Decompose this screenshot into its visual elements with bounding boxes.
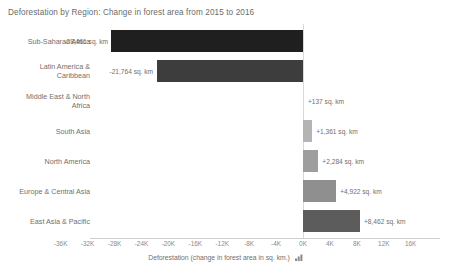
x-axis-tick-label: -16K (189, 240, 203, 247)
bar-value-label: -28,461 sq. km (64, 38, 108, 45)
bar-track: +137 sq. km (0, 86, 451, 116)
bar-row[interactable]: East Asia & Pacific+8,462 sq. km (0, 206, 451, 236)
bar-row[interactable]: Middle East & North Africa+137 sq. km (0, 86, 451, 116)
sort-ascending-icon[interactable] (295, 254, 303, 262)
x-axis-tick-label: 16K (405, 240, 416, 247)
x-axis-tick-label: -36K (54, 240, 68, 247)
bar-row[interactable]: Sub-Saharan Africa-28,461 sq. km (0, 26, 451, 56)
bar-value-label: -21,764 sq. km (110, 68, 154, 75)
axis-line (90, 238, 440, 239)
x-axis-tick-label: -28K (108, 240, 122, 247)
x-axis-tick-label: -24K (135, 240, 149, 247)
chart-title: Deforestation by Region: Change in fores… (8, 8, 254, 17)
bar-track: +1,361 sq. km (0, 116, 451, 146)
bar-track: +8,462 sq. km (0, 206, 451, 236)
x-axis-tick-label: 4K (326, 240, 334, 247)
bar[interactable] (303, 90, 304, 112)
bar-row[interactable]: North America+2,284 sq. km (0, 146, 451, 176)
x-axis-tick-label: 0K (299, 240, 307, 247)
bar[interactable] (303, 120, 312, 142)
x-axis-title-label: Deforestation (change in forest area in … (148, 254, 290, 261)
plot-area: Sub-Saharan Africa-28,461 sq. kmLatin Am… (0, 24, 451, 238)
x-axis-tick-label: -4K (271, 240, 281, 247)
bar-value-label: +2,284 sq. km (322, 158, 364, 165)
x-axis-title[interactable]: Deforestation (change in forest area in … (0, 254, 451, 262)
bar-row[interactable]: Latin America & Caribbean-21,764 sq. km (0, 56, 451, 86)
x-axis-tick-label: 8K (353, 240, 361, 247)
bar[interactable] (111, 30, 303, 52)
bar-row[interactable]: South Asia+1,361 sq. km (0, 116, 451, 146)
x-axis: -36K-32K-28K-24K-20K-16K-12K-8K-4K0K4K8K… (0, 238, 451, 274)
x-axis-tick-label: 12K (378, 240, 389, 247)
deforestation-bar-chart: Deforestation by Region: Change in fores… (0, 0, 451, 274)
bar-value-label: +137 sq. km (308, 98, 344, 105)
bar-track: +4,922 sq. km (0, 176, 451, 206)
bar[interactable] (303, 210, 360, 232)
bar-track: -21,764 sq. km (0, 56, 451, 86)
bar-row[interactable]: Europe & Central Asia+4,922 sq. km (0, 176, 451, 206)
x-axis-tick-label: -8K (244, 240, 254, 247)
x-axis-tick-label: -12K (215, 240, 229, 247)
x-axis-tick-label: -32K (81, 240, 95, 247)
bar-value-label: +1,361 sq. km (316, 128, 358, 135)
bar[interactable] (303, 180, 336, 202)
bar[interactable] (303, 150, 318, 172)
bar[interactable] (157, 60, 303, 82)
x-axis-tick-label: -20K (162, 240, 176, 247)
bar-track: +2,284 sq. km (0, 146, 451, 176)
bar-value-label: +8,462 sq. km (364, 218, 406, 225)
bar-value-label: +4,922 sq. km (340, 188, 382, 195)
bar-track: -28,461 sq. km (0, 26, 451, 56)
